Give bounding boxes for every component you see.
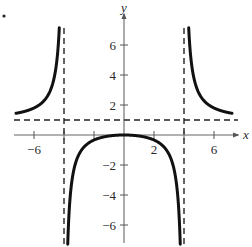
x-tick-label-6: 6 (211, 142, 218, 157)
y-tick-label-neg2: −2 (102, 158, 116, 173)
x-tick-label-neg6: −6 (27, 142, 41, 157)
right-branch (189, 28, 232, 114)
y-axis-label: y (119, 0, 127, 15)
y-tick-label-neg4: −4 (102, 188, 116, 203)
y-tick-label-4: 4 (110, 68, 117, 83)
y-tick-label-neg6: −6 (102, 218, 116, 233)
figure-marker-dot (2, 14, 5, 17)
function-graph: −6 2 6 6 4 2 −2 −4 −6 x y (0, 0, 252, 247)
x-axis-label: x (242, 127, 249, 142)
left-branch (16, 28, 59, 114)
y-tick-label-6: 6 (110, 38, 117, 53)
x-tick-label-2: 2 (151, 142, 158, 157)
y-tick-label-2: 2 (110, 98, 117, 113)
